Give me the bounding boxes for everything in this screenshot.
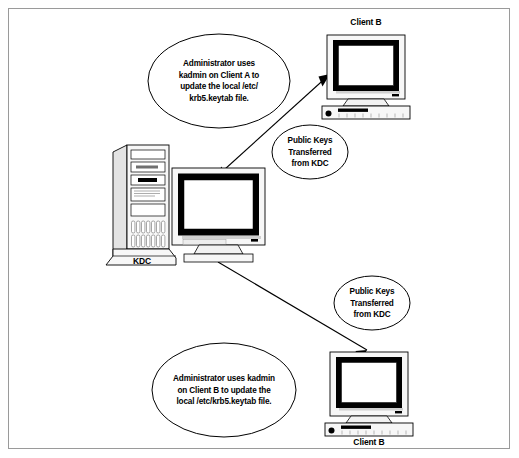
callout-line: krb5.keytab file. <box>149 93 289 105</box>
callout-line: Administrator uses <box>149 58 289 70</box>
callout-admin-client-b: Administrator uses kadmin on Client B to… <box>150 373 298 408</box>
desktop-computer-icon <box>172 168 265 262</box>
desktop-computer-icon <box>325 352 413 436</box>
callout-line: from KDC <box>270 158 350 170</box>
callout-line: update the local /etc/ <box>149 81 289 93</box>
node-label-client-top: Client B <box>330 17 402 27</box>
callout-public-keys-bottom: Public Keys Transferred from KDC <box>332 286 412 321</box>
node-label-kdc: KDC <box>112 256 172 266</box>
callout-line: Transferred <box>270 147 350 159</box>
callout-line: Transferred <box>332 298 412 310</box>
diagram-figure: Client B KDC Client B Administrator uses… <box>0 0 519 458</box>
callout-line: Public Keys <box>332 286 412 298</box>
callout-admin-client-a: Administrator uses kadmin on Client A to… <box>149 58 289 104</box>
callout-line: local /etc/krb5.keytab file. <box>150 396 298 408</box>
tower-computer-icon <box>106 145 176 265</box>
desktop-computer-icon <box>322 35 410 119</box>
callout-public-keys-top: Public Keys Transferred from KDC <box>270 135 350 170</box>
callout-line: Public Keys <box>270 135 350 147</box>
callout-line: Administrator uses kadmin <box>150 373 298 385</box>
callout-line: on Client B to update the <box>150 385 298 397</box>
callout-line: kadmin on Client A to <box>149 70 289 82</box>
callout-line: from KDC <box>332 309 412 321</box>
node-label-client-bottom: Client B <box>333 437 405 447</box>
